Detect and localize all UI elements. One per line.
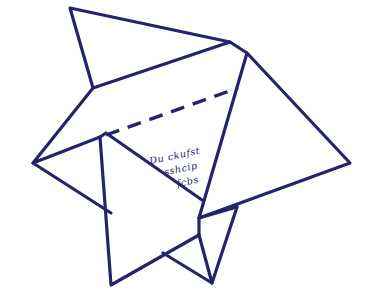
- left-panel-outline: [33, 88, 100, 163]
- left-lower-edge: [33, 163, 111, 213]
- origami-diagram: Du ckufst sshcip fcbs: [0, 0, 367, 304]
- top-flap-outline: [70, 8, 230, 88]
- dashed-fold-line: [106, 88, 238, 135]
- note-line-3: fcbs: [175, 174, 200, 190]
- upper-ridge: [199, 42, 350, 218]
- right-lower-edge: [199, 207, 237, 218]
